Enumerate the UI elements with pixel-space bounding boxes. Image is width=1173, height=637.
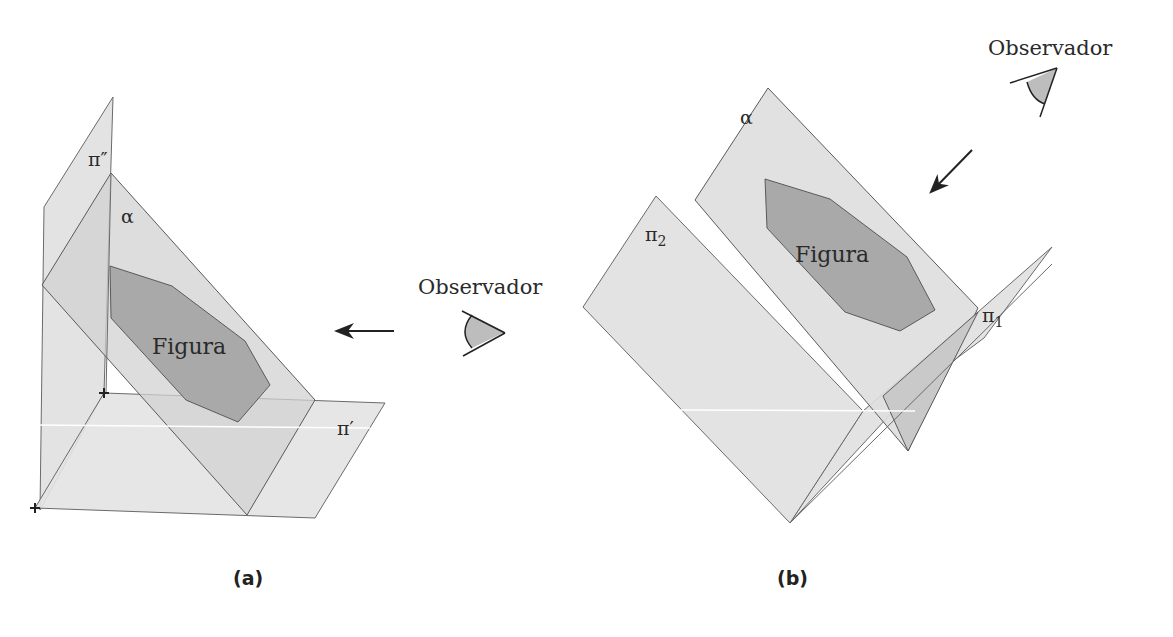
eye-icon: [1010, 68, 1057, 117]
label-figura-b: Figura: [795, 242, 869, 267]
label-figura-a: Figura: [152, 334, 226, 359]
eye-icon: [462, 311, 505, 356]
caption-b: (b): [777, 567, 808, 589]
label-alpha-b: α: [740, 106, 753, 128]
caption-a: (a): [233, 567, 263, 589]
label-alpha-a: α: [121, 205, 134, 227]
diagram-a: π″ α Figura π′ (a): [30, 97, 385, 589]
diagram-b: α π2 π1 Figura (b): [583, 88, 1052, 589]
label-observador-a: Observador: [418, 275, 543, 299]
arrow-down-left-icon: [932, 150, 972, 191]
observer-a: Observador: [338, 275, 543, 356]
label-pi-prime: π′: [337, 417, 354, 439]
observer-b: Observador: [932, 36, 1113, 191]
label-pi-double-prime: π″: [88, 148, 108, 170]
label-observador-b: Observador: [988, 36, 1113, 60]
projection-diagrams: π″ α Figura π′ (a) Observador α π2 π1 Fi…: [0, 0, 1173, 637]
